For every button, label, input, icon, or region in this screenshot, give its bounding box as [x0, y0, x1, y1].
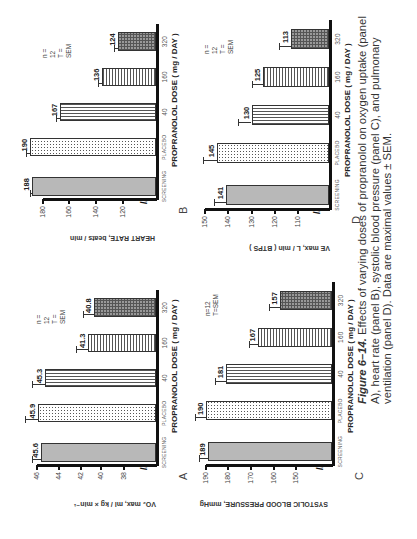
- y-tick-label: 110: [294, 216, 301, 240]
- error-bar: [214, 202, 226, 203]
- x-category-label: PLACEBO: [161, 401, 167, 426]
- y-axis-line: [206, 464, 333, 467]
- panel-letter: B: [177, 207, 189, 214]
- bar-placebo: [206, 401, 332, 420]
- bar-screening: [32, 177, 156, 195]
- y-tick-label: 42: [77, 472, 84, 496]
- bar-value-label: 125: [253, 69, 262, 82]
- y-tick-label: 150: [292, 472, 299, 496]
- bar-value-label: 45.9: [28, 404, 37, 419]
- legend-n-sem: n = 12T = SEM: [203, 40, 235, 54]
- y-tick: [204, 209, 206, 214]
- bar-160: [88, 334, 156, 352]
- y-tick: [273, 465, 275, 470]
- bar-value-label: 157: [270, 292, 279, 305]
- bar-160: [258, 328, 332, 347]
- y-tick: [122, 199, 124, 204]
- bar-value-label: 167: [248, 329, 257, 342]
- x-axis-title: PROPRANOLOL DOSE ( mg / DAY ): [170, 299, 179, 433]
- bar-value-label: 190: [196, 403, 205, 416]
- error-bar: [215, 381, 226, 382]
- y-tick-label: 40: [97, 472, 104, 496]
- bar-value-label: 190: [20, 139, 29, 152]
- x-category-label: 160: [161, 71, 168, 82]
- error-bar: [83, 314, 94, 315]
- x-axis-line: [156, 290, 159, 466]
- bar-value-label: 136: [92, 69, 101, 82]
- legend-line: T=SEM: [212, 294, 220, 316]
- y-tick: [227, 465, 229, 470]
- error-bar: [76, 349, 88, 350]
- error-bar-cap: [203, 157, 204, 164]
- y-tick: [123, 465, 125, 470]
- x-category-label: 40: [161, 374, 168, 382]
- y-tick-label: 120: [271, 216, 278, 240]
- bar-value-label: 188: [22, 178, 31, 191]
- error-bar: [279, 46, 291, 47]
- bar-value-label: 181: [216, 366, 225, 379]
- error-bar: [25, 419, 38, 420]
- bar-placebo: [38, 404, 156, 422]
- x-category-label: 40: [337, 370, 344, 378]
- error-bar-cap: [279, 43, 280, 50]
- legend-n-sem: n = 12T = SEM: [41, 44, 73, 58]
- y-axis-title: VO₂ max, ml / kg × min⁻¹: [74, 500, 156, 508]
- x-category-label: 40: [334, 111, 341, 119]
- x-category-label: 40: [161, 108, 168, 116]
- y-axis-title: HEART RATE, beats / min: [70, 235, 155, 242]
- y-tick-label: 140: [92, 206, 99, 230]
- y-tick: [100, 465, 102, 470]
- y-tick-label: 46: [33, 472, 40, 496]
- error-bar: [195, 417, 206, 418]
- error-bar: [32, 384, 45, 385]
- y-tick: [68, 199, 70, 204]
- bar-40: [60, 103, 156, 121]
- y-tick: [80, 465, 82, 470]
- bar-value-label: 113: [281, 31, 290, 43]
- legend-line: T = SEM: [219, 40, 235, 54]
- y-axis-title: VE max, L / min ( BTPS ): [249, 245, 330, 252]
- x-axis-line: [156, 24, 159, 200]
- y-tick: [297, 209, 299, 214]
- x-category-label: 320: [161, 36, 168, 47]
- x-axis-title: PROPRANOLOL DOSE ( mg / DAY ): [343, 43, 352, 177]
- bar-320: [291, 29, 329, 49]
- bar-value-label: 189: [198, 443, 207, 456]
- x-axis-line: [329, 20, 332, 210]
- x-axis-title: PROPRANOLOL DOSE ( mg / DAY ): [170, 33, 179, 167]
- legend-line: T = SEM: [51, 310, 67, 324]
- x-category-label: 320: [337, 295, 344, 306]
- y-tick-label: 150: [201, 216, 208, 240]
- x-category-label: 160: [161, 337, 168, 348]
- y-tick-label: 160: [270, 472, 277, 496]
- error-bar: [269, 307, 280, 308]
- x-axis-title: PROPRANOLOL DOSE ( mg / DAY ): [346, 299, 355, 433]
- x-category-label: SCREENING: [161, 171, 167, 203]
- caption-label: Figure 6–14.: [356, 338, 368, 404]
- y-tick-label: 140: [224, 216, 231, 240]
- bar-320: [280, 291, 332, 310]
- y-tick-label: 38: [120, 472, 127, 496]
- error-bar: [203, 160, 217, 161]
- bar-value-label: 167: [50, 104, 59, 117]
- y-tick: [36, 465, 38, 470]
- y-tick: [251, 209, 253, 214]
- x-category-label: 160: [334, 71, 341, 82]
- y-tick-label: 190: [202, 472, 209, 496]
- error-bar-cap: [25, 416, 26, 423]
- bar-40: [45, 369, 156, 387]
- y-tick: [42, 199, 44, 204]
- x-category-label: PLACEBO: [161, 135, 167, 160]
- bar-value-label: 41.3: [78, 334, 87, 349]
- panel-letter: C: [353, 472, 365, 480]
- x-category-label: 320: [161, 302, 168, 313]
- error-bar: [252, 84, 264, 85]
- bar-160: [263, 67, 329, 87]
- error-bar-cap: [238, 119, 239, 126]
- error-bar: [249, 344, 258, 345]
- error-bar-cap: [32, 381, 33, 388]
- error-bar: [199, 458, 208, 459]
- bar-160: [102, 68, 156, 86]
- error-bar-cap: [199, 455, 200, 462]
- legend-line: n = 12: [203, 40, 219, 54]
